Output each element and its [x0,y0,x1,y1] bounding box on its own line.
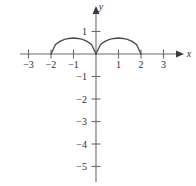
y-tick-label--1: −1 [76,71,87,82]
x-tick-label-1: 1 [116,59,121,70]
x-axis-arrow-icon [176,51,184,58]
x-tick-label-2: 2 [139,59,144,70]
y-tick-label-1: 1 [82,26,87,37]
y-tick-label--4: −4 [76,139,87,150]
x-axis-label: x [186,48,192,59]
y-tick-label--2: −2 [76,94,87,105]
x-tick-label--2: −2 [46,59,57,70]
x-tick-label-3: 3 [161,59,166,70]
coordinate-plane: −3 −2 −1 1 2 3 1 −1 −2 −3 −4 −5 x y [0,0,196,186]
y-tick-label--5: −5 [76,161,87,172]
y-tick-label--3: −3 [76,116,87,127]
graph-figure: −3 −2 −1 1 2 3 1 −1 −2 −3 −4 −5 x y [0,0,196,186]
x-tick-label--3: −3 [23,59,34,70]
y-axis-label: y [98,1,104,12]
x-tick-label--1: −1 [68,59,79,70]
